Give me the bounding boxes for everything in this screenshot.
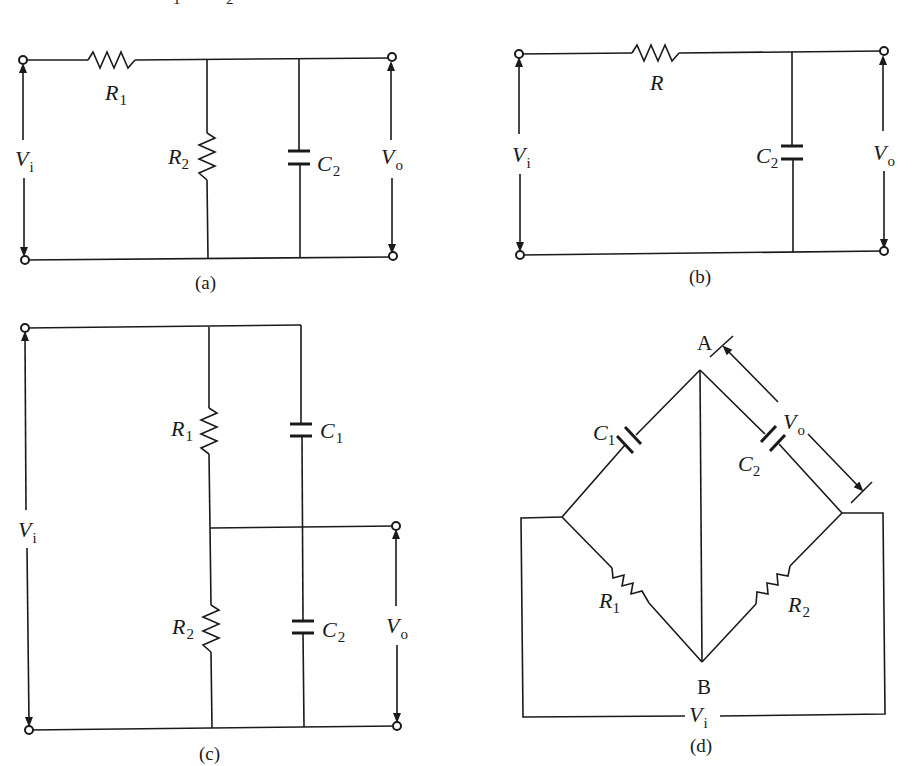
- caption-b: (b): [689, 266, 711, 288]
- resistor-r1: [612, 568, 649, 603]
- terminal-out-top: [392, 522, 400, 530]
- label-r: R: [649, 70, 664, 95]
- label-vo: Vo: [783, 409, 805, 438]
- terminal-in-bottom: [516, 251, 524, 259]
- resistor-r1: [201, 408, 217, 454]
- resistor-r: [632, 45, 679, 61]
- terminal-in-bottom: [21, 256, 29, 264]
- label-r2: R2: [787, 592, 810, 620]
- resistor-r1: [88, 52, 135, 68]
- label-r2: R2: [167, 144, 189, 172]
- label-c2: C2: [756, 143, 778, 171]
- top-fragment-1: 1: [173, 0, 181, 7]
- node-a-label: A: [697, 331, 713, 355]
- label-vo: Vo: [386, 613, 408, 642]
- caption-a: (a): [195, 272, 216, 294]
- caption-c: (c): [199, 743, 220, 765]
- circuit-b: R C2 Vi Vo (b): [512, 45, 895, 288]
- terminal-out-bottom: [389, 252, 397, 260]
- label-c2: C2: [322, 617, 345, 645]
- resistor-r2: [756, 566, 790, 604]
- label-r1: R1: [598, 588, 620, 616]
- caption-d: (d): [690, 735, 712, 757]
- label-r2: R2: [171, 614, 194, 642]
- top-fragment-2: 2: [226, 0, 234, 7]
- circuit-d: A B C1 C2 R1 R2 Vo Vi (d): [521, 331, 885, 757]
- terminal-out-top: [388, 53, 396, 61]
- label-c1: C1: [320, 418, 343, 446]
- circuit-a: R1 R2 C2 Vi Vo (a): [15, 52, 403, 294]
- label-c2: C2: [317, 151, 340, 179]
- resistor-r2: [199, 133, 215, 180]
- label-r1: R1: [104, 80, 127, 108]
- label-r1: R1: [170, 416, 193, 444]
- terminal-in-top: [21, 324, 29, 332]
- circuit-c: R1 C1 R2 C2 Vi Vo (c): [18, 324, 408, 765]
- node-b-label: B: [697, 675, 711, 699]
- capacitor-c1: [625, 427, 641, 444]
- resistor-r2: [203, 605, 219, 652]
- label-c1: C1: [593, 420, 615, 448]
- label-vi: Vi: [512, 142, 531, 171]
- terminal-out-top: [880, 47, 888, 55]
- terminal-in-top: [19, 56, 27, 64]
- terminal-out-bottom: [393, 722, 401, 730]
- label-c2: C2: [738, 451, 760, 479]
- label-vi: Vi: [15, 146, 34, 175]
- terminal-in-bottom: [25, 726, 33, 734]
- label-vi: Vi: [18, 517, 37, 546]
- label-vo: Vo: [381, 144, 403, 173]
- capacitor-c2: [761, 426, 776, 442]
- label-vo: Vo: [873, 140, 895, 169]
- terminal-in-top: [515, 50, 523, 58]
- terminal-out-bottom: [880, 247, 888, 255]
- label-vi: Vi: [689, 702, 708, 731]
